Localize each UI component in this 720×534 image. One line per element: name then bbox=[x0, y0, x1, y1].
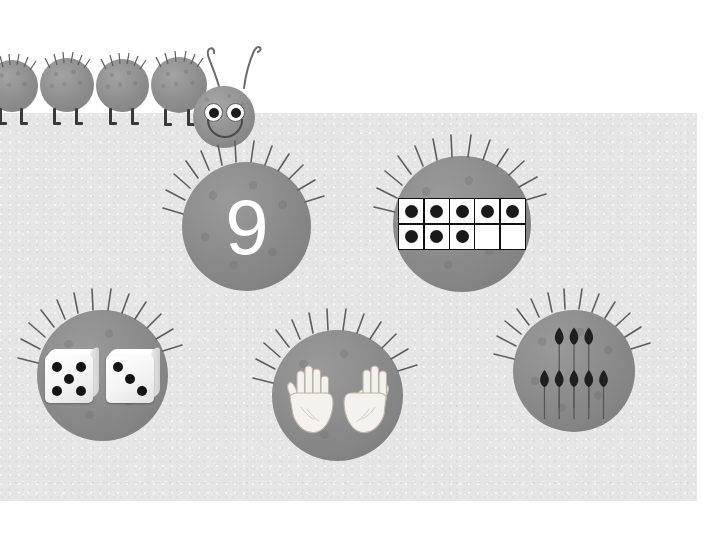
ten-frame-cell-empty bbox=[501, 225, 525, 249]
caterpillar-foot bbox=[109, 122, 117, 125]
ten-frame-dot bbox=[405, 205, 418, 218]
right-pupil bbox=[231, 108, 241, 118]
caterpillar-foot bbox=[20, 122, 28, 125]
ten-frame-cell bbox=[425, 199, 449, 223]
die-pip bbox=[64, 374, 74, 384]
pins-card[interactable] bbox=[513, 310, 635, 432]
caterpillar-foot bbox=[131, 122, 139, 125]
left-hand-five-fingers-icon[interactable] bbox=[281, 357, 337, 435]
ten-frame-cell-empty bbox=[475, 225, 499, 249]
die-pip bbox=[125, 374, 135, 384]
die-pip bbox=[76, 362, 86, 372]
ten-frame-cell bbox=[501, 199, 525, 223]
ten-frame-cell bbox=[399, 225, 423, 249]
worksheet-stage: Number 9 representations worksheet bbox=[0, 0, 720, 534]
caterpillar-foot bbox=[164, 123, 172, 126]
pin bbox=[540, 370, 549, 419]
pins-content bbox=[513, 310, 635, 432]
die-pip bbox=[76, 386, 86, 396]
pins-group-icon[interactable] bbox=[526, 323, 622, 419]
head-spots bbox=[193, 86, 255, 148]
ten-frame-dot bbox=[481, 205, 494, 218]
hands-content bbox=[272, 330, 403, 461]
segment-spots bbox=[96, 59, 149, 112]
die-pip bbox=[52, 362, 62, 372]
pin bbox=[555, 370, 564, 419]
caterpillar-foot bbox=[75, 122, 83, 125]
hands-pair bbox=[281, 357, 395, 435]
dice-content bbox=[37, 310, 168, 441]
ten-frame-card[interactable] bbox=[393, 156, 531, 292]
caterpillar-foot bbox=[53, 122, 61, 125]
ten-frame-dot bbox=[456, 230, 469, 243]
ten-frame-cell bbox=[475, 199, 499, 223]
pin bbox=[584, 370, 593, 419]
caterpillar-segment bbox=[40, 58, 94, 112]
ten-frame-cell bbox=[425, 225, 449, 249]
caterpillar-segment bbox=[0, 60, 38, 112]
die-pip bbox=[137, 386, 147, 396]
die-front-face bbox=[106, 355, 154, 403]
pin bbox=[570, 370, 579, 419]
ten-frame-dot bbox=[430, 205, 443, 218]
ten-frame-cell bbox=[450, 225, 474, 249]
die-pip bbox=[52, 386, 62, 396]
ten-frame-cell bbox=[450, 199, 474, 223]
ten-frame-dot bbox=[405, 230, 418, 243]
caterpillar-head bbox=[193, 86, 255, 148]
ten-frame-dot bbox=[506, 205, 519, 218]
antennae-icon bbox=[192, 36, 266, 92]
die-front-face bbox=[45, 355, 93, 403]
die-three[interactable] bbox=[106, 349, 160, 403]
ten-frame-content bbox=[393, 156, 531, 292]
pin bbox=[599, 370, 608, 419]
caterpillar-mascot bbox=[0, 38, 286, 133]
pins-bottom-row bbox=[540, 370, 608, 419]
segment-spots bbox=[0, 60, 38, 112]
numeral-content: 9 bbox=[182, 162, 311, 291]
numeral-value: 9 bbox=[225, 188, 267, 266]
numeral-card[interactable]: 9 bbox=[182, 162, 311, 291]
segment-spots bbox=[40, 58, 94, 112]
dice-pair bbox=[45, 349, 160, 403]
die-five[interactable] bbox=[45, 349, 99, 403]
ten-frame-cell bbox=[399, 199, 423, 223]
ten-frame-dot bbox=[456, 205, 469, 218]
die-pip bbox=[113, 362, 123, 372]
hands-card[interactable] bbox=[272, 330, 403, 461]
dice-card[interactable] bbox=[37, 310, 168, 441]
caterpillar-segment bbox=[96, 59, 149, 112]
caterpillar-foot bbox=[0, 122, 7, 125]
right-hand-three-fingers-icon[interactable] bbox=[339, 357, 395, 435]
ten-frame-grid[interactable] bbox=[398, 198, 526, 249]
left-pupil bbox=[209, 108, 219, 118]
ten-frame-dot bbox=[430, 230, 443, 243]
